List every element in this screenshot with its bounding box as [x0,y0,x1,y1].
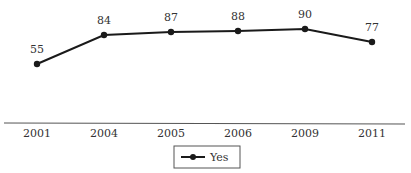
data-label: 84 [97,14,111,27]
data-label: 88 [231,10,245,23]
line-chart: 558487889077 200120042005200620092011 Ye… [0,0,411,173]
x-tick-label: 2004 [90,127,118,140]
x-tick-label: 2009 [291,127,319,140]
data-label: 87 [164,11,178,24]
x-tick-label: 2005 [157,127,185,140]
data-label: 90 [298,8,312,21]
data-point [34,61,40,67]
legend-marker-icon [190,154,196,160]
x-tick-label: 2001 [23,127,51,140]
data-point [369,39,375,45]
legend: Yes [174,146,240,168]
data-point [235,28,241,34]
series-line-yes [37,29,372,64]
data-point [101,32,107,38]
legend-label: Yes [209,151,229,164]
data-point [168,29,174,35]
data-label: 77 [365,21,379,34]
x-tick-label: 2006 [224,127,252,140]
data-label: 55 [30,43,44,56]
x-axis-line [4,123,405,124]
data-point [302,26,308,32]
x-tick-label: 2011 [358,127,386,140]
